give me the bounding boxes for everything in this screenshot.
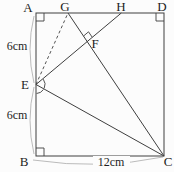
measurement-label-EB: 6cm	[7, 108, 28, 122]
diagram-canvas: A G H D E F B C 6cm 6cm 12cm	[0, 0, 174, 172]
measurement-label-BC: 12cm	[98, 155, 125, 169]
measurement-label-AE: 6cm	[7, 39, 28, 53]
vertex-label-H: H	[116, 0, 125, 14]
vertex-label-F: F	[91, 36, 98, 51]
vertex-label-C: C	[164, 154, 173, 169]
vertex-label-A: A	[23, 0, 33, 15]
vertex-label-B: B	[20, 154, 29, 169]
vertex-label-D: D	[157, 0, 166, 14]
geometry-diagram: A G H D E F B C 6cm 6cm 12cm	[0, 0, 174, 172]
vertex-label-G: G	[60, 0, 69, 14]
vertex-label-E: E	[21, 77, 29, 92]
